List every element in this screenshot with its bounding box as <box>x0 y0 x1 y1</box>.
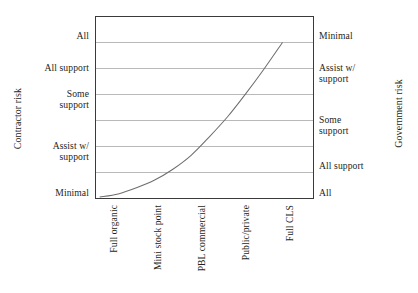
x-tick-2: PBL commercial <box>197 205 207 271</box>
y-tick-right-2: Some support <box>319 114 348 137</box>
x-tick-3: Public/private <box>241 205 251 260</box>
plot-area <box>95 16 314 199</box>
x-tick-1: Mini stock point <box>153 205 163 270</box>
y-tick-left-4: Minimal <box>55 187 89 198</box>
y-tick-right-0: Minimal <box>319 30 353 41</box>
y-tick-right-1: Assist w/ support <box>319 62 355 85</box>
y-axis-labels-left: All All support Some support Assist w/ s… <box>0 0 89 293</box>
y-axis-title-right: Government risk <box>393 59 404 169</box>
y-tick-right-4: All <box>319 187 332 198</box>
x-tick-4: Full CLS <box>285 205 295 241</box>
x-tick-0: Full organic <box>109 205 119 253</box>
y-tick-left-3: Assist w/ support <box>53 140 89 163</box>
y-tick-left-1: All support <box>44 62 89 73</box>
y-tick-left-0: All <box>76 30 89 41</box>
chart-figure: Contractor risk Government risk All All … <box>0 0 418 293</box>
y-tick-left-2: Some support <box>60 88 89 111</box>
risk-curve-path <box>100 43 282 197</box>
y-axis-labels-right: Minimal Assist w/ support Some support A… <box>319 0 393 293</box>
y-tick-right-3: All support <box>319 160 364 171</box>
risk-curve-layer <box>96 17 313 198</box>
